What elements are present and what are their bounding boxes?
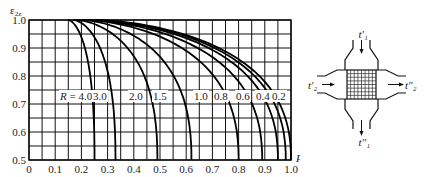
t1-outlet-label: t″₁: [359, 136, 371, 148]
duct-left-top: [317, 70, 347, 76]
duct-top-left: [345, 40, 353, 70]
crossflow-diagram: t′₁t″₁t′₂t″₂: [0, 0, 433, 177]
duct-right-bottom: [376, 93, 406, 99]
arrow-right-icon: [330, 83, 335, 87]
arrow-right-icon: [399, 83, 404, 87]
duct-top-right: [370, 40, 378, 70]
t1-inlet-label: t′₁: [359, 28, 368, 40]
duct-bottom-right: [370, 99, 378, 129]
t2-inlet-label: t′₂: [308, 79, 317, 91]
duct-bottom-left: [345, 99, 353, 129]
t2-outlet-label: t″₂: [405, 79, 417, 91]
arrow-down-icon: [360, 49, 364, 54]
duct-right-top: [376, 70, 406, 76]
duct-left-bottom: [317, 93, 347, 99]
